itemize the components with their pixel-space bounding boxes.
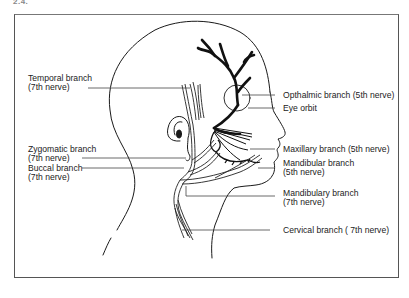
face-profile (212, 92, 286, 258)
label-mandibular-branch: Mandibular branch (5th nerve) (283, 159, 354, 177)
label-temporal-branch: Temporal branch (7th nerve) (28, 74, 92, 92)
label-cervical-branch: Cervical branch ( 7th nerve) (283, 226, 389, 235)
ear (168, 116, 191, 160)
label-zygomatic-branch: Zygomatic branch (7th nerve) (28, 145, 96, 163)
label-eye-orbit: Eye orbit (283, 104, 317, 113)
label-maxillary-branch: Maxillary branch (5th nerve) (283, 145, 390, 154)
label-opthalmic-branch: Opthalmic branch (5th nerve) (283, 91, 394, 100)
trigeminal-nerve (198, 40, 254, 134)
neck-line (103, 238, 111, 255)
label-mandibulary-branch: Mandibulary branch (7th nerve) (283, 189, 358, 207)
label-buccal-branch: Buccal branch (7th nerve) (28, 164, 82, 182)
